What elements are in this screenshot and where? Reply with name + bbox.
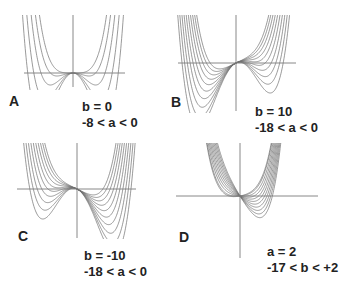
quartic-figure xyxy=(0,0,352,286)
panel-a-letter: A xyxy=(9,94,19,109)
panel-c-param-2: -18 < a < 0 xyxy=(84,264,147,279)
panel-d-letter: D xyxy=(179,230,189,245)
panel-c-param-1: b = -10 xyxy=(84,248,126,263)
panel-a-param-1: b = 0 xyxy=(82,99,112,114)
panel-d-param-1: a = 2 xyxy=(267,244,296,259)
panel-b-letter: B xyxy=(171,95,181,110)
panel-b-param-2: -18 < a < 0 xyxy=(255,120,318,135)
panel-b-param-1: b = 10 xyxy=(255,104,292,119)
panel-a-param-2: -8 < a < 0 xyxy=(82,115,138,130)
panel-d-param-2: -17 < b < +2 xyxy=(267,260,338,275)
panel-c-letter: C xyxy=(18,229,28,244)
